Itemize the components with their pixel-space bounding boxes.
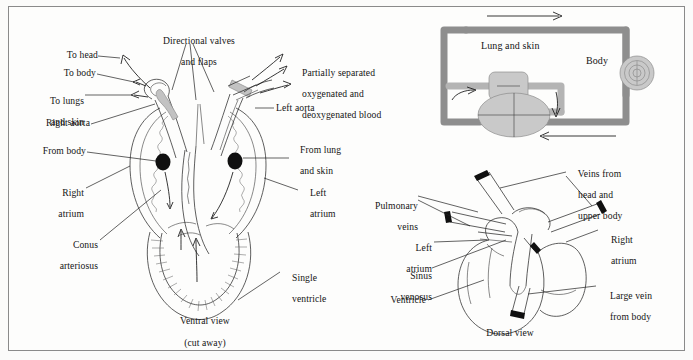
figure-page: Directional valves and flaps To head To … [0, 0, 693, 360]
label-left-atrium-line1: Left [310, 187, 326, 198]
label-from-body: From body [18, 146, 86, 157]
label-lung-and-skin: Lung and skin [481, 41, 569, 52]
label-sinus-line1: Sinus [410, 270, 432, 281]
label-to-lungs-and-skin: To lungs and skin [26, 85, 84, 138]
vessel-cut-end [444, 211, 452, 223]
label-from-lung-line2: and skin [300, 165, 333, 176]
vessel-cut-end [510, 310, 525, 319]
label-dorsal-right-atrium-line2: atrium [611, 255, 637, 266]
label-directional-valves-line2: and flaps [181, 56, 217, 67]
label-to-body: To body [36, 68, 96, 79]
ventral-caption-line2: (cut away) [184, 337, 226, 348]
label-large-vein-line1: Large vein [610, 290, 652, 301]
right-vein-opening [156, 154, 171, 171]
label-to-lungs-line1: To lungs [50, 95, 84, 106]
label-veins-from-head-line1: Veins from [578, 168, 621, 179]
label-left-aorta: Left aorta [276, 103, 346, 114]
label-single-ventricle-line1: Single [292, 272, 317, 283]
label-dorsal-left-atrium-line1: Left [416, 242, 432, 253]
label-veins-from-head: Veins from head and upper body [568, 158, 640, 232]
label-partially-separated-blood: Partially separated oxygenated and deoxy… [292, 57, 396, 131]
label-large-vein-from-body: Large vein from body [600, 280, 672, 333]
label-pulmonary-line2: veins [397, 221, 418, 232]
label-single-ventricle: Single ventricle [282, 262, 346, 315]
label-partially-line2: oxygenated and [302, 88, 364, 99]
label-right-atrium: Right atrium [24, 177, 84, 230]
label-right-aorta: Right aorta [18, 118, 90, 129]
label-body: Body [586, 56, 626, 67]
label-dorsal-ventricle: Ventricle [362, 295, 426, 306]
dorsal-view-caption: Dorsal view [455, 327, 565, 338]
label-partially-line1: Partially separated [302, 67, 375, 78]
vessel-cut-end [530, 242, 541, 254]
ventral-view-caption: Ventral view (cut away) [140, 304, 260, 359]
label-pulmonary-line1: Pulmonary [375, 200, 418, 211]
internal-flow-arrows [165, 172, 233, 282]
label-directional-valves-line1: Directional valves [163, 35, 235, 46]
label-veins-from-head-line3: upper body [578, 210, 622, 221]
label-right-atrium-line2: atrium [58, 208, 84, 219]
label-veins-from-head-line2: head and [578, 189, 613, 200]
label-conus-line1: Conus [73, 239, 98, 250]
label-from-lung-line1: From lung [300, 144, 341, 155]
label-directional-valves: Directional valves and flaps [140, 25, 248, 78]
label-left-atrium: Left atrium [300, 177, 356, 230]
ventral-caption-line1: Ventral view [180, 315, 230, 326]
vessel-cut-end [474, 170, 490, 181]
label-conus-line2: arteriosus [60, 260, 98, 271]
label-conus-arteriosus: Conus arteriosus [22, 229, 98, 282]
left-vein-opening [228, 153, 243, 170]
circulation-schematic [444, 12, 654, 140]
label-single-ventricle-line2: ventricle [292, 293, 326, 304]
label-dorsal-right-atrium-line1: Right [611, 234, 633, 245]
label-dorsal-right-atrium: Right atrium [601, 224, 659, 277]
ventral-heart-drawing [121, 54, 291, 320]
label-to-head: To head [46, 50, 98, 61]
label-right-atrium-line1: Right [62, 187, 84, 198]
label-large-vein-line2: from body [610, 311, 651, 322]
label-left-atrium-line2: atrium [310, 208, 336, 219]
